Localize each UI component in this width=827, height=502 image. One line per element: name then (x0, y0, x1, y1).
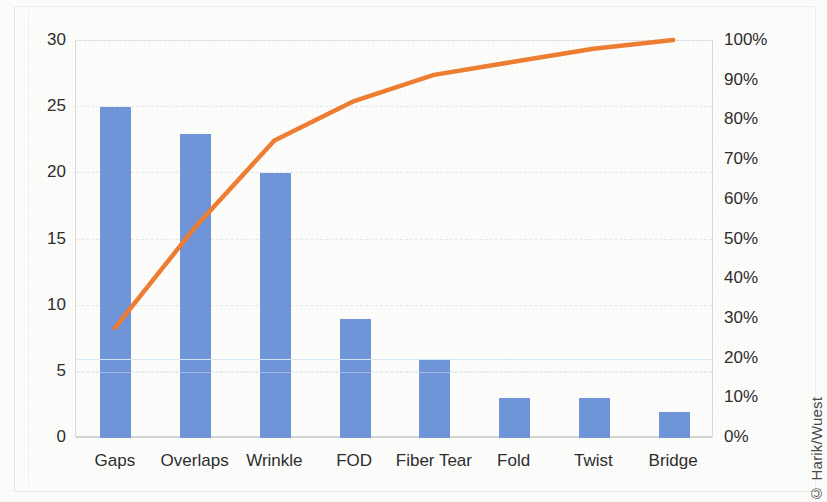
left-axis-tick-5: 5 (10, 362, 66, 379)
x-axis-label-fiber-tear: Fiber Tear (396, 451, 472, 471)
gridline (76, 40, 712, 41)
right-axis-tick-60: 60% (724, 190, 758, 207)
plot-area (75, 40, 713, 437)
right-axis-tick-30: 30% (724, 309, 758, 326)
bar-twist (579, 398, 610, 438)
copyright-credit: © Harik/Wuest (808, 362, 825, 502)
x-axis-label-bridge: Bridge (649, 451, 698, 471)
left-axis-tick-0: 0 (10, 428, 66, 445)
x-axis-label-gaps: Gaps (95, 451, 136, 471)
bar-fod (340, 319, 371, 438)
right-axis-tick-40: 40% (724, 269, 758, 286)
right-axis-tick-80: 80% (724, 110, 758, 127)
gridline (76, 437, 712, 438)
right-axis-tick-20: 20% (724, 349, 758, 366)
x-axis-label-twist: Twist (574, 451, 613, 471)
gridline (76, 172, 712, 173)
bar-crossing-gridline (76, 372, 712, 373)
gridline (76, 239, 712, 240)
bar-bridge (659, 412, 690, 438)
bar-fold (499, 398, 530, 438)
left-axis-tick-30: 30 (10, 31, 66, 48)
right-axis-tick-10: 10% (724, 388, 758, 405)
left-axis-tick-25: 25 (10, 97, 66, 114)
left-axis-tick-15: 15 (10, 230, 66, 247)
pareto-chart-figure: 051015202530 0%10%20%30%40%50%60%70%80%9… (0, 0, 827, 502)
gridline (76, 305, 712, 306)
right-axis-tick-0: 0% (724, 428, 749, 445)
left-axis-tick-20: 20 (10, 163, 66, 180)
bar-crossing-gridline (76, 359, 712, 360)
right-axis-tick-50: 50% (724, 230, 758, 247)
right-axis-tick-90: 90% (724, 71, 758, 88)
bar-gaps (100, 107, 131, 438)
bar-fiber-tear (419, 359, 450, 438)
bar-wrinkle (260, 173, 291, 438)
right-axis-tick-70: 70% (724, 150, 758, 167)
x-axis-label-wrinkle: Wrinkle (246, 451, 302, 471)
gridline (76, 106, 712, 107)
x-axis-label-fod: FOD (336, 451, 372, 471)
left-axis-tick-10: 10 (10, 296, 66, 313)
bar-overlaps (180, 134, 211, 438)
x-axis-label-overlaps: Overlaps (161, 451, 229, 471)
x-axis-label-fold: Fold (497, 451, 530, 471)
right-axis-tick-100: 100% (724, 31, 767, 48)
